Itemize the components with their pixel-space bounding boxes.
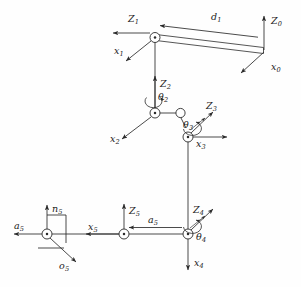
label-x0: x0 <box>271 62 281 72</box>
label-x4: x4 <box>194 258 204 268</box>
link-d1-body <box>156 35 264 54</box>
label-z2: Z2 <box>160 79 171 89</box>
frame-0-axes <box>241 16 264 73</box>
label-z4: Z4 <box>193 205 204 215</box>
label-theta2: θ2 <box>158 92 168 102</box>
label-x3: x3 <box>196 139 206 149</box>
label-d1: d1 <box>211 12 221 22</box>
joint-3 <box>183 132 193 142</box>
joint-5 <box>119 229 129 239</box>
frame-2-axes <box>122 76 162 139</box>
joint-4 <box>183 229 193 239</box>
elbow-pivot <box>176 108 185 117</box>
kinematic-diagram-figure: Z1 x1 d1 Z0 x0 Z2 θ2 x2 Z3 θ3 x3 Z4 θ4 x… <box>0 0 301 287</box>
label-theta3: θ3 <box>183 120 193 130</box>
label-a5-tool: a5 <box>14 221 24 231</box>
label-x5: x5 <box>88 222 98 232</box>
label-z0: Z0 <box>271 16 282 26</box>
joint-1 <box>150 33 160 43</box>
label-n5: n5 <box>52 204 62 214</box>
diagram-canvas <box>0 0 301 287</box>
d1-dimension-arrow <box>160 26 258 38</box>
label-a5: a5 <box>148 215 158 225</box>
label-z1: Z1 <box>128 14 139 24</box>
label-theta4: θ4 <box>196 232 206 242</box>
label-o5: o5 <box>59 261 69 271</box>
label-x2: x2 <box>110 134 120 144</box>
label-z3: Z3 <box>206 101 217 111</box>
label-x1: x1 <box>114 46 124 56</box>
joint-2 <box>150 108 160 118</box>
joint-tool <box>42 229 52 239</box>
label-z5: Z5 <box>129 206 140 216</box>
